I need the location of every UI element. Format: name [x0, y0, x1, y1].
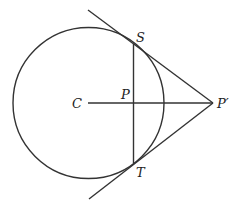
tangent-line-lower — [89, 103, 213, 199]
label-c: C — [72, 96, 82, 111]
label-t: T — [136, 165, 146, 180]
label-s: S — [136, 30, 145, 45]
diagram-canvas: C P S T P′ — [0, 0, 241, 210]
tangent-line-upper — [88, 10, 213, 103]
label-p-prime: P′ — [216, 96, 229, 111]
label-p: P — [120, 87, 130, 102]
